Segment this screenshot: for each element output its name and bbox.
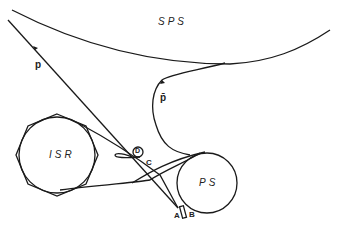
ejection-element-ab (180, 206, 187, 219)
c-label: C (146, 158, 152, 167)
isr-label: ISR (49, 149, 75, 160)
proton-beam-line (8, 20, 178, 208)
ps-label: PS (199, 177, 218, 188)
b-label: B (189, 210, 195, 219)
sps-label: SPS (158, 16, 187, 27)
antiproton-label: p̄ (160, 92, 166, 103)
antiproton-beam-line (153, 63, 225, 155)
d-label: D (135, 147, 140, 154)
a-label: A (174, 211, 180, 220)
proton-label: p (35, 59, 41, 70)
accelerator-layout-diagram (0, 0, 341, 234)
